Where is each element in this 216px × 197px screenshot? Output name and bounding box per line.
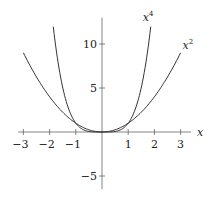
function-plot: −3−2−1123−5510xx2x4 (0, 0, 216, 197)
x-tick-label: 3 (177, 138, 184, 151)
y-tick-label: 10 (83, 38, 97, 51)
x-axis-label: x (197, 126, 204, 139)
x-tick-label: 1 (125, 138, 132, 151)
y-tick-label: −5 (81, 170, 97, 183)
axes (18, 18, 191, 190)
x-tick-label: −1 (65, 138, 81, 151)
y-tick-label: 5 (90, 82, 97, 95)
x-tick-label: −2 (38, 138, 54, 151)
x-tick-label: −3 (12, 138, 28, 151)
series-label-x4: x4 (143, 10, 154, 24)
series-label-x2: x2 (183, 38, 194, 52)
labels: −3−2−1123−5510xx2x4 (12, 10, 204, 183)
x-tick-label: 2 (151, 138, 158, 151)
